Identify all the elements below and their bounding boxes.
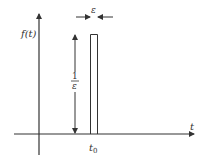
pulse-position-label: t0 — [89, 142, 98, 155]
y-axis-label: f(t) — [20, 28, 37, 39]
height-label-denominator: ε — [72, 81, 77, 91]
width-label: ε — [91, 5, 96, 15]
pulse-rectangle — [91, 35, 98, 135]
height-label-numerator: 1 — [72, 71, 78, 81]
x-axis-label: t — [190, 121, 195, 132]
impulse-diagram: ε f(t) t 1 ε t0 — [0, 0, 203, 162]
